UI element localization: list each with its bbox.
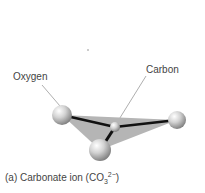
carbonate-ion-diagram (0, 0, 205, 193)
stray-dot (87, 49, 89, 51)
oxygen-atom-right (168, 111, 186, 129)
trigonal-plane (62, 115, 177, 150)
carbon-leader-line (118, 76, 146, 121)
oxygen-label: Oxygen (13, 71, 47, 82)
oxygen-atom-left (52, 105, 72, 125)
oxygen-leader-line (42, 85, 60, 106)
carbon-label: Carbon (146, 64, 179, 75)
figure-caption: (a) Carbonate ion (CO32−) (5, 171, 119, 185)
carbon-atom (110, 122, 120, 132)
oxygen-atom-bottom (89, 139, 111, 161)
